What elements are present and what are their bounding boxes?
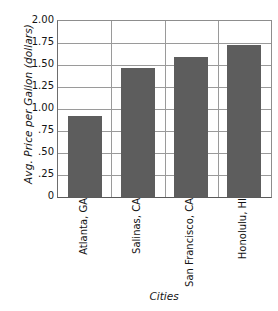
x-tick-cell: Honolulu, HI [217, 198, 270, 284]
x-tick-label: Atlanta, GA [79, 198, 89, 255]
x-tick-cell: San Francisco, CA [164, 198, 217, 284]
y-axis-tick-labels: 2.001.751.501.251.00.75.50.250 [16, 0, 54, 311]
x-tick-label: San Francisco, CA [185, 198, 195, 287]
bar [174, 57, 208, 197]
y-tick-label: 1.75 [16, 37, 54, 47]
y-tick-label: .25 [16, 169, 54, 179]
x-tick-label: Honolulu, HI [238, 198, 248, 259]
y-tick-label: 1.50 [16, 59, 54, 69]
bar [68, 116, 102, 197]
y-tick-label: 1.25 [16, 81, 54, 91]
y-tick-label: 1.00 [16, 103, 54, 113]
bar [227, 45, 261, 197]
bar [121, 68, 155, 197]
x-tick-label: Salinas, CA [132, 198, 142, 254]
y-tick-label: 0 [16, 191, 54, 201]
x-tick-cell: Atlanta, GA [57, 198, 110, 284]
plot-area [57, 20, 272, 198]
bars-layer [58, 21, 271, 197]
bar-chart: Avg. Price per Gallon (dollars) 2.001.75… [0, 0, 278, 311]
x-tick-cell: Salinas, CA [110, 198, 163, 284]
y-tick-label: .75 [16, 125, 54, 135]
y-tick-label: 2.00 [16, 15, 54, 25]
y-tick-label: .50 [16, 147, 54, 157]
x-axis-tick-labels: Atlanta, GASalinas, CASan Francisco, CAH… [57, 198, 271, 284]
x-axis-title: Cities [57, 290, 271, 302]
